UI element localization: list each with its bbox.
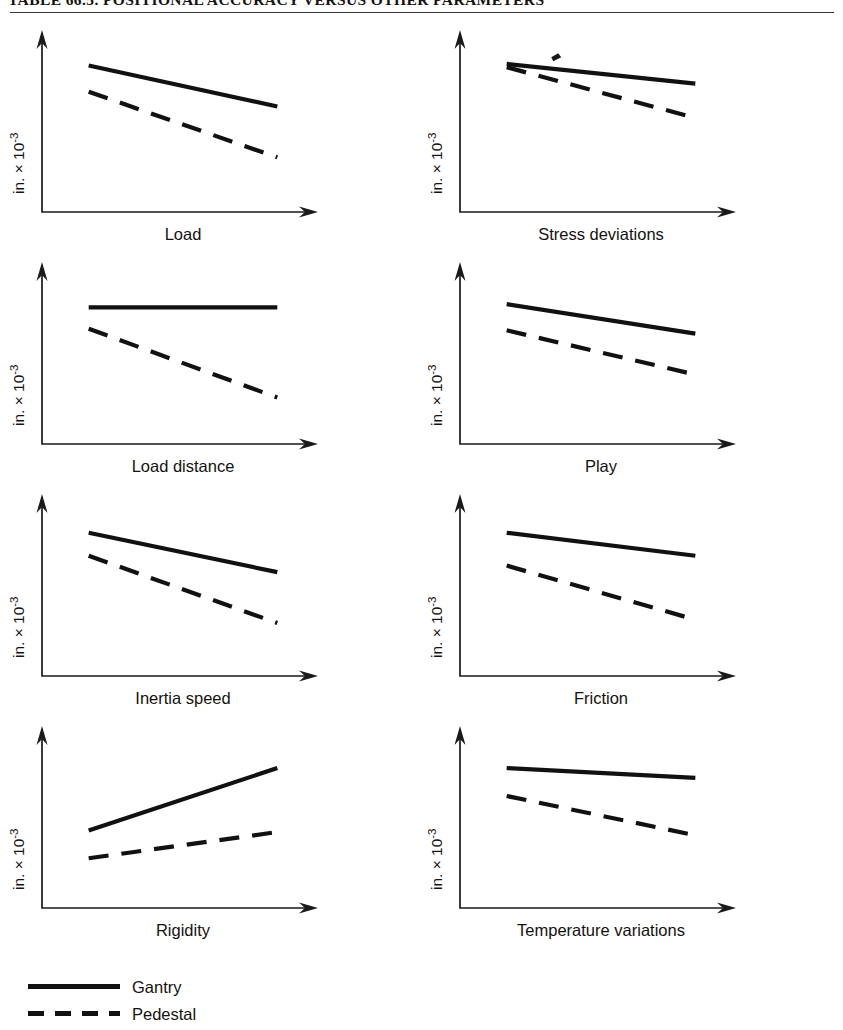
series-line-pedestal xyxy=(507,330,696,374)
legend-label: Gantry xyxy=(132,975,182,999)
series-line-pedestal xyxy=(507,566,696,620)
chart-panel-friction: in. × 10-3Friction xyxy=(418,486,838,718)
y-axis-label: in. × 10-3 xyxy=(8,364,27,426)
chart-panel-stress-deviations: in. × 10-3Stress deviations xyxy=(418,22,838,254)
x-axis-label: Play xyxy=(585,457,618,475)
series-line-gantry xyxy=(507,533,696,556)
chart-axes xyxy=(460,506,724,676)
x-axis-label: Temperature variations xyxy=(517,921,685,939)
series-line-gantry xyxy=(89,768,278,830)
chart-panel-rigidity: in. × 10-3Rigidity xyxy=(0,718,420,950)
chart-grid: in. × 10-3Loadin. × 10-3Stress deviation… xyxy=(0,22,843,932)
chart-panel-play: in. × 10-3Play xyxy=(418,254,838,486)
chart-panel-inertia-speed: in. × 10-3Inertia speed xyxy=(0,486,420,718)
chart-panel-load: in. × 10-3Load xyxy=(0,22,420,254)
x-axis-label: Rigidity xyxy=(156,921,211,939)
legend-item-gantry: Gantry xyxy=(28,975,348,1002)
chart-panel-load-distance: in. × 10-3Load distance xyxy=(0,254,420,486)
x-axis-label: Inertia speed xyxy=(135,689,230,707)
y-axis-label: in. × 10-3 xyxy=(426,364,445,426)
chart-axes xyxy=(42,274,306,444)
dashed-line-swatch xyxy=(28,1011,120,1016)
x-axis-label: Load distance xyxy=(132,457,235,475)
series-line-gantry xyxy=(507,64,696,84)
figure-legend: GantryPedestal xyxy=(28,975,348,1030)
series-line-gantry xyxy=(89,66,278,107)
y-axis-label: in. × 10-3 xyxy=(426,828,445,890)
chart-axes xyxy=(460,42,724,212)
y-axis-label: in. × 10-3 xyxy=(8,828,27,890)
y-axis-label: in. × 10-3 xyxy=(426,132,445,194)
series-line-pedestal xyxy=(89,832,278,858)
ink-smudge-artifact xyxy=(551,53,561,61)
chart-axes xyxy=(42,738,306,908)
series-line-gantry xyxy=(507,304,696,334)
y-axis-label: in. × 10-3 xyxy=(426,596,445,658)
chart-axes xyxy=(460,738,724,908)
y-axis-label: in. × 10-3 xyxy=(8,596,27,658)
chart-panel-temperature-variations: in. × 10-3Temperature variations xyxy=(418,718,838,950)
series-line-gantry xyxy=(507,768,696,778)
legend-item-pedestal: Pedestal xyxy=(28,1002,348,1029)
series-line-pedestal xyxy=(89,329,278,398)
x-axis-label: Friction xyxy=(574,689,628,707)
y-axis-label: in. × 10-3 xyxy=(8,132,27,194)
x-axis-label: Load xyxy=(165,225,202,243)
title-divider-rule xyxy=(10,12,834,13)
legend-label: Pedestal xyxy=(132,1002,196,1026)
chart-axes xyxy=(42,42,306,212)
series-line-gantry xyxy=(89,533,278,572)
chart-axes xyxy=(460,274,724,444)
page-title: TABLE 66.5. POSITIONAL ACCURACY VERSUS O… xyxy=(8,0,828,9)
series-line-pedestal xyxy=(507,796,696,835)
chart-axes xyxy=(42,506,306,676)
x-axis-label: Stress deviations xyxy=(538,225,664,243)
solid-line-swatch xyxy=(28,984,120,989)
